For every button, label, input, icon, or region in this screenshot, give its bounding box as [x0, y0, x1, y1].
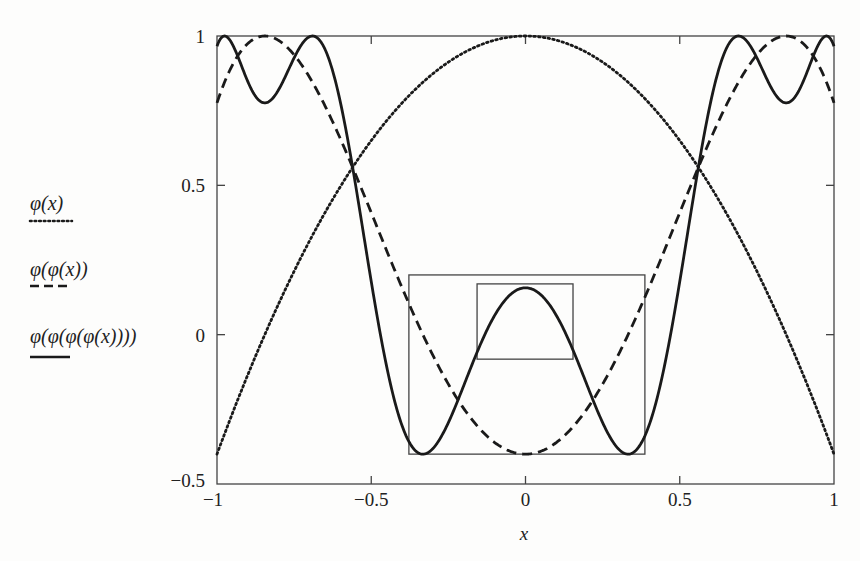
dashed-curve — [217, 36, 834, 454]
legend-label: φ(φ(φ(φ(x)))) — [30, 325, 137, 348]
y-tick-label: 0.5 — [181, 175, 205, 196]
x-tick-label: 1 — [829, 489, 839, 510]
legend: φ(x) φ(φ(x)) φ(φ(φ(φ(x)))) — [30, 192, 137, 357]
x-tick-label: 0 — [521, 489, 531, 510]
outer-renormalization-box — [409, 275, 645, 454]
legend-item-phi: φ(x) — [30, 192, 72, 221]
x-axis-label: x — [519, 523, 529, 544]
x-tick-label: 0.5 — [668, 489, 692, 510]
renormalization-boxes — [409, 275, 645, 454]
y-tick-label: 0 — [196, 325, 206, 346]
solid-curve — [217, 36, 834, 454]
axis-ticks — [217, 36, 834, 484]
legend-item-phi2: φ(φ(x)) — [30, 258, 88, 286]
dotted-curve — [217, 36, 834, 454]
legend-label: φ(x) — [30, 192, 64, 215]
y-tick-label: −0.5 — [171, 470, 205, 491]
legend-label: φ(φ(x)) — [30, 258, 88, 281]
legend-item-phi4: φ(φ(φ(φ(x)))) — [30, 325, 137, 357]
x-tick-label: −1 — [203, 489, 223, 510]
x-tick-label: −0.5 — [354, 489, 388, 510]
plot-frame — [217, 36, 834, 484]
chart: −1−0.500.51−0.500.51 x φ(x) φ(φ(x)) φ(φ(… — [0, 0, 860, 561]
y-tick-label: 1 — [196, 26, 206, 47]
curves — [217, 36, 834, 454]
